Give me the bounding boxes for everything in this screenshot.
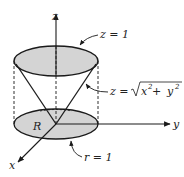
- svg-text:y: y: [166, 85, 174, 98]
- leader-cone: [86, 84, 108, 92]
- svg-text:2: 2: [174, 83, 180, 91]
- base-circle-label: r = 1: [84, 151, 112, 164]
- z-axis-label: z: [51, 10, 58, 23]
- leader-z1: [80, 35, 98, 45]
- top-plane-label: z = 1: [99, 28, 129, 41]
- y-axis-label: y: [172, 118, 180, 131]
- region-label: R: [32, 120, 41, 133]
- cone-in-cylinder-diagram: z y x z = 1 R r = 1 z = x 2 + y 2: [0, 0, 184, 177]
- svg-text:x: x: [141, 85, 148, 98]
- x-axis-label: x: [9, 159, 16, 172]
- svg-text:+: +: [152, 85, 161, 98]
- leader-r1: [71, 141, 82, 157]
- cone-equation-label: z = x 2 + y 2: [109, 82, 182, 98]
- svg-text:z =: z =: [109, 85, 129, 98]
